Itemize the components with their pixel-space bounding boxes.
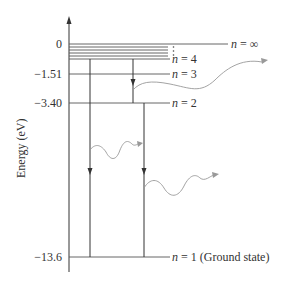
level-label-4: n = 4: [172, 53, 197, 65]
photon-arrowheads: [137, 58, 268, 178]
y-axis-label: Energy (eV): [14, 119, 29, 178]
level-label-3: n = 3: [172, 68, 197, 80]
tick-label-0: 0: [22, 38, 62, 50]
axis-arrow-icon: [67, 16, 72, 24]
transitions: [90, 59, 144, 257]
tick-label-n2: −3.40: [22, 97, 62, 109]
level-label-2: n = 2: [172, 97, 197, 109]
tick-label-n3: −1.51: [22, 68, 62, 80]
photon-4-to-3: [133, 61, 262, 90]
transition-arrowheads: [88, 79, 147, 175]
photons: [90, 61, 262, 195]
photon-4-to-1: [90, 142, 138, 159]
level-label-1: n = 1 (Ground state): [172, 251, 269, 263]
energy-levels: [69, 44, 228, 257]
level-label-infinity: n = ∞: [231, 38, 258, 50]
tick-label-n1: −13.6: [22, 251, 62, 263]
photon-2-to-1: [144, 175, 214, 195]
